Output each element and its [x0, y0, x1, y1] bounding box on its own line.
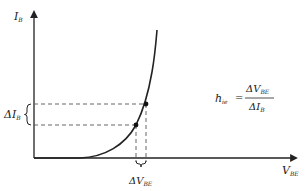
- transistor-input-characteristic-diagram: IB VBE ΔIB ΔVBE hie = ΔVBE ΔIB: [0, 0, 306, 191]
- formula-numerator: ΔVBE: [245, 83, 270, 95]
- upper-point: [144, 102, 149, 107]
- x-axis-label: VBE: [282, 164, 299, 177]
- y-axis-label: IB: [13, 10, 23, 23]
- delta-ib-label: ΔIB: [3, 108, 21, 121]
- formula-denominator: ΔIB: [248, 101, 265, 113]
- hie-formula: hie = ΔVBE ΔIB: [215, 83, 274, 113]
- delta-ib-brace: [25, 104, 32, 125]
- lower-point: [134, 123, 139, 128]
- formula-equals: =: [235, 92, 243, 103]
- formula-lhs: hie: [215, 92, 228, 105]
- delta-vbe-brace: [136, 161, 146, 167]
- ib-vbe-curve: [34, 30, 157, 158]
- delta-vbe-label: ΔVBE: [128, 175, 153, 187]
